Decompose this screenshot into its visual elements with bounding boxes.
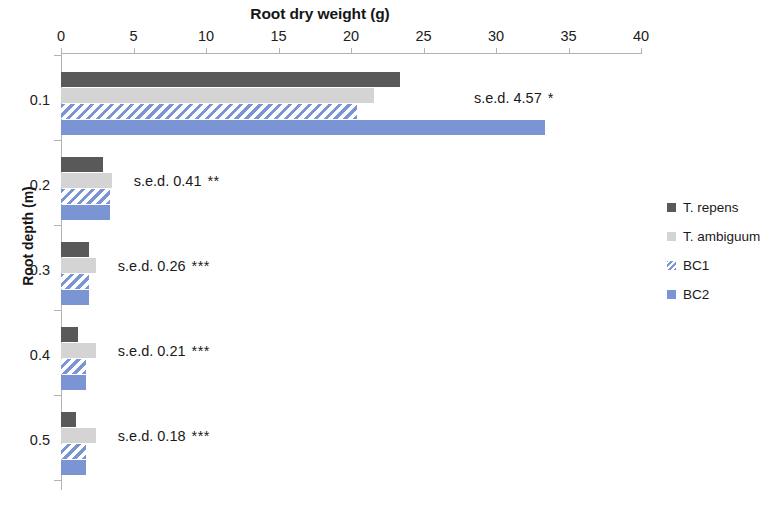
chart-legend: T. repensT. ambiguumBC1BC2 (667, 193, 774, 309)
x-tick-mark (61, 48, 62, 54)
x-tick-label: 5 (114, 28, 154, 44)
bar-bc1-depth-0.4 (61, 359, 86, 374)
bar-t-repens-depth-0.1 (61, 72, 400, 87)
x-tick-mark (569, 48, 570, 54)
bar-t-repens-depth-0.4 (61, 327, 78, 342)
legend-label: BC1 (683, 258, 709, 273)
y-tick-mark (54, 55, 61, 56)
bar-bc2-depth-0.5 (61, 460, 86, 475)
sed-label: s.e.d. 4.57 (474, 90, 542, 106)
significance-stars: *** (192, 428, 210, 444)
bar-bc1-depth-0.1 (61, 104, 357, 119)
significance-stars: * (548, 90, 554, 106)
sed-label: s.e.d. 0.26 (118, 258, 186, 274)
x-tick-label: 25 (404, 28, 444, 44)
legend-swatch-icon (667, 203, 676, 212)
bar-bc1-depth-0.2 (61, 189, 110, 204)
y-tick-mark (54, 225, 61, 226)
root-dry-weight-bar-chart: Root dry weight (g) 0510152025303540 Roo… (0, 0, 774, 507)
x-tick-mark (424, 48, 425, 54)
chart-title: Root dry weight (g) (0, 5, 640, 23)
x-tick-label: 40 (621, 28, 661, 44)
x-tick-mark (206, 48, 207, 54)
y-tick-label: 0.4 (0, 347, 50, 363)
y-tick-label: 0.3 (0, 262, 50, 278)
y-tick-label: 0.5 (0, 432, 50, 448)
y-tick-label: 0.2 (0, 177, 50, 193)
bar-t-repens-depth-0.3 (61, 242, 89, 257)
x-tick-mark (134, 48, 135, 54)
sed-label: s.e.d. 0.41 (134, 173, 202, 189)
legend-item-bc2[interactable]: BC2 (667, 280, 774, 309)
y-tick-mark (54, 140, 61, 141)
bar-t-ambiguum-depth-0.5 (61, 428, 96, 443)
sed-annotation-depth-0.1: s.e.d. 4.57* (474, 90, 554, 106)
y-tick-mark (54, 310, 61, 311)
legend-swatch-icon (667, 232, 676, 241)
sed-annotation-depth-0.4: s.e.d. 0.21*** (118, 343, 210, 359)
sed-annotation-depth-0.2: s.e.d. 0.41** (134, 173, 220, 189)
bar-t-ambiguum-depth-0.3 (61, 258, 96, 273)
bar-bc2-depth-0.2 (61, 205, 110, 220)
legend-label: T. repens (683, 200, 739, 215)
bar-t-ambiguum-depth-0.4 (61, 343, 96, 358)
legend-item-bc1[interactable]: BC1 (667, 251, 774, 280)
legend-item-t-repens[interactable]: T. repens (667, 193, 774, 222)
bar-bc2-depth-0.1 (61, 120, 545, 135)
x-tick-mark (351, 48, 352, 54)
legend-swatch-icon (667, 261, 676, 270)
sed-annotation-depth-0.5: s.e.d. 0.18*** (118, 428, 210, 444)
significance-stars: *** (192, 343, 210, 359)
x-tick-label: 20 (331, 28, 371, 44)
y-tick-mark (54, 395, 61, 396)
significance-stars: ** (207, 173, 219, 189)
y-tick-mark (54, 480, 61, 481)
bar-bc1-depth-0.5 (61, 444, 86, 459)
y-tick-label: 0.1 (0, 92, 50, 108)
bar-bc2-depth-0.4 (61, 375, 86, 390)
x-tick-label: 15 (259, 28, 299, 44)
sed-annotation-depth-0.3: s.e.d. 0.26*** (118, 258, 210, 274)
legend-item-t-ambiguum[interactable]: T. ambiguum (667, 222, 774, 251)
bar-bc1-depth-0.3 (61, 274, 89, 289)
x-axis-tick-labels: 0510152025303540 (0, 28, 774, 48)
legend-label: BC2 (683, 287, 709, 302)
x-tick-mark (641, 48, 642, 54)
bar-t-repens-depth-0.2 (61, 157, 103, 172)
x-tick-label: 0 (41, 28, 81, 44)
x-tick-mark (279, 48, 280, 54)
x-tick-label: 10 (186, 28, 226, 44)
x-tick-mark (496, 48, 497, 54)
x-tick-label: 30 (476, 28, 516, 44)
sed-label: s.e.d. 0.18 (118, 428, 186, 444)
bar-t-repens-depth-0.5 (61, 412, 76, 427)
significance-stars: *** (192, 258, 210, 274)
bar-bc2-depth-0.3 (61, 290, 89, 305)
x-tick-label: 35 (549, 28, 589, 44)
sed-label: s.e.d. 0.21 (118, 343, 186, 359)
legend-label: T. ambiguum (683, 229, 760, 244)
bar-t-ambiguum-depth-0.1 (61, 88, 374, 103)
legend-swatch-icon (667, 290, 676, 299)
bar-t-ambiguum-depth-0.2 (61, 173, 112, 188)
